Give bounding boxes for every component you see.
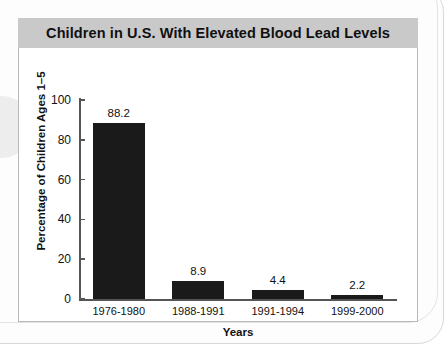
y-axis-tick-mark <box>79 258 85 260</box>
bar-value-label: 4.4 <box>238 275 318 287</box>
y-axis-tick-mark <box>79 179 85 181</box>
chart-figure: Children in U.S. With Elevated Blood Lea… <box>18 18 418 322</box>
bar-value-label: 88.2 <box>79 108 159 120</box>
x-axis-tick-label: 1976-1980 <box>74 306 164 317</box>
bar-value-label: 2.2 <box>317 280 397 292</box>
y-axis-tick-mark <box>79 298 85 300</box>
y-axis-title: Percentage of Children Ages 1–5 <box>35 61 47 261</box>
y-axis-tick-label: 100 <box>11 94 71 106</box>
x-axis-tick-label: 1988-1991 <box>153 306 243 317</box>
y-axis-tick-mark <box>79 139 85 141</box>
chart-plot-panel: Percentage of Children Ages 1–5 02040608… <box>18 48 418 322</box>
x-axis-tick-label: 1999-2000 <box>312 306 402 317</box>
x-axis-tick-label: 1991-1994 <box>233 306 323 317</box>
bar <box>93 123 145 299</box>
chart-title-band: Children in U.S. With Elevated Blood Lea… <box>18 18 418 48</box>
bar <box>331 295 383 299</box>
bar <box>172 281 224 299</box>
x-axis-title: Years <box>79 326 397 338</box>
y-axis-tick-label: 60 <box>11 174 71 186</box>
x-axis-line <box>79 299 397 301</box>
y-axis-tick-label: 40 <box>11 213 71 225</box>
bar-value-label: 8.9 <box>158 266 238 278</box>
y-axis-tick-label: 20 <box>11 253 71 265</box>
y-axis-tick-mark <box>79 219 85 221</box>
y-axis-line <box>79 98 81 300</box>
y-axis-tick-mark <box>79 99 85 101</box>
bar <box>252 290 304 299</box>
chart-title: Children in U.S. With Elevated Blood Lea… <box>46 25 390 41</box>
y-axis-tick-label: 80 <box>11 134 71 146</box>
y-axis-tick-label: 0 <box>11 293 71 305</box>
